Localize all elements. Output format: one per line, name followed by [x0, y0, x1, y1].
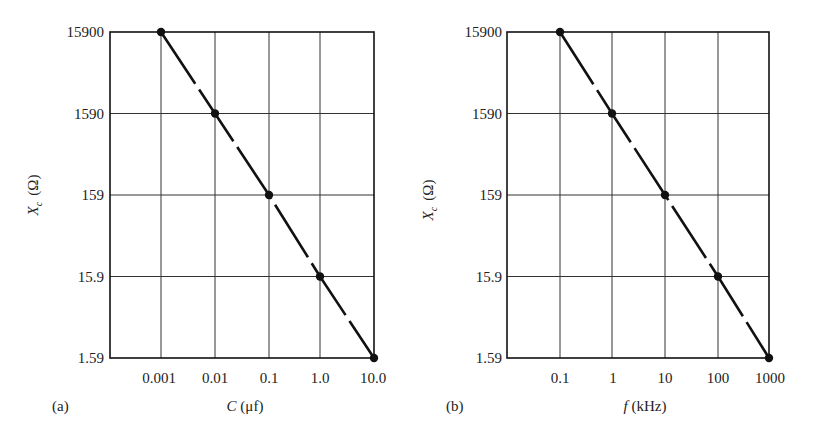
y-axis-unit: (Ω)	[420, 180, 437, 201]
x-tick-label: 10	[658, 370, 673, 386]
data-point	[765, 354, 773, 362]
data-point	[608, 109, 616, 117]
data-point	[661, 191, 669, 199]
chart-panel-b: 15900 1590 159 15.9 1.59 0.1 1 10 100 10…	[0, 0, 813, 447]
y-tick-label: 1.59	[476, 350, 502, 366]
x-axis-label-b: f (kHz)	[624, 398, 667, 415]
y-tick-label: 1590	[472, 106, 502, 122]
x-tick-label: 100	[707, 370, 730, 386]
y-tick-label: 159	[480, 187, 503, 203]
y-tick-label: 15900	[465, 24, 503, 40]
y-axis-ticks-b: 15900 1590 159 15.9 1.59	[465, 24, 503, 366]
y-axis-subscript: c	[428, 206, 439, 211]
x-axis-ticks-b: 0.1 1 10 100 1000	[551, 370, 785, 386]
grid-lines-b	[507, 32, 769, 358]
data-point	[556, 28, 564, 36]
x-tick-label: 1	[609, 370, 617, 386]
x-tick-label: 0.1	[551, 370, 570, 386]
y-axis-label-b: Xc(Ω)	[420, 180, 439, 222]
y-tick-label: 15.9	[476, 269, 502, 285]
data-point	[714, 272, 722, 280]
panel-label-b: (b)	[446, 398, 464, 415]
plot-area-b	[507, 28, 773, 362]
svg-text:Xc(Ω): Xc(Ω)	[420, 180, 439, 222]
x-tick-label: 1000	[755, 370, 785, 386]
